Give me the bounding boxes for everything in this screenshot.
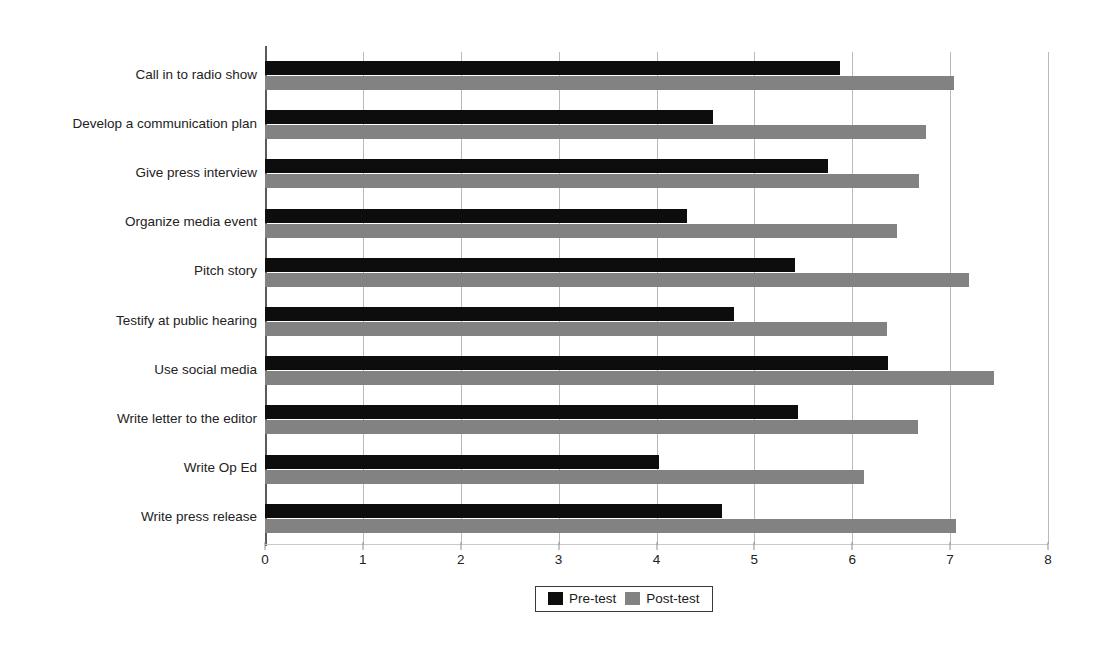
bar-group [265, 347, 1048, 396]
bar-group [265, 101, 1048, 150]
legend-swatch-icon [548, 592, 563, 605]
bar-group [265, 298, 1048, 347]
bar-pre-test [265, 455, 659, 469]
bar-group [265, 150, 1048, 199]
bar-post-test [265, 470, 864, 484]
category-label: Organize media event [0, 214, 257, 230]
tick-label-7: 7 [946, 552, 954, 567]
tick-mark [460, 542, 461, 550]
category-label: Pitch story [0, 263, 257, 279]
bar-post-test [265, 322, 887, 336]
value-axis-labels: 012345678 [265, 552, 1048, 576]
bar-pre-test [265, 258, 795, 272]
bar-pre-test [265, 159, 828, 173]
tick-mark [265, 542, 266, 550]
tick-mark [754, 542, 755, 550]
category-label: Write press release [0, 509, 257, 525]
tick-mark [656, 542, 657, 550]
bar-group [265, 200, 1048, 249]
legend-swatch-icon [625, 592, 640, 605]
tick-label-6: 6 [848, 552, 856, 567]
tick-label-4: 4 [653, 552, 661, 567]
legend-item: Pre-test [548, 591, 616, 606]
legend-label: Pre-test [569, 591, 616, 606]
tick-mark [852, 542, 853, 550]
bar-post-test [265, 371, 994, 385]
category-label: Testify at public hearing [0, 313, 257, 329]
bar-group [265, 446, 1048, 495]
tick-label-5: 5 [751, 552, 759, 567]
tick-label-8: 8 [1044, 552, 1052, 567]
bar-pre-test [265, 61, 840, 75]
category-label: Develop a communication plan [0, 116, 257, 132]
tick-mark [1048, 542, 1049, 550]
chart-legend: Pre-testPost-test [535, 586, 713, 612]
bar-post-test [265, 224, 897, 238]
tick-label-3: 3 [555, 552, 563, 567]
category-label: Use social media [0, 362, 257, 378]
bar-post-test [265, 76, 954, 90]
bar-chart: Call in to radio showDevelop a communica… [0, 0, 1093, 651]
bar-pre-test [265, 504, 722, 518]
bar-post-test [265, 519, 956, 533]
tick-mark [558, 542, 559, 550]
tick-mark [362, 542, 363, 550]
bar-group [265, 396, 1048, 445]
bar-post-test [265, 273, 969, 287]
bar-pre-test [265, 356, 888, 370]
bar-pre-test [265, 209, 687, 223]
tick-mark [950, 542, 951, 550]
bar-pre-test [265, 405, 798, 419]
category-label: Write letter to the editor [0, 411, 257, 427]
gridline-8 [1048, 52, 1049, 544]
tick-label-2: 2 [457, 552, 465, 567]
category-label: Write Op Ed [0, 460, 257, 476]
bar-group [265, 52, 1048, 101]
category-label: Give press interview [0, 165, 257, 181]
bar-pre-test [265, 110, 713, 124]
bar-post-test [265, 420, 918, 434]
tick-label-0: 0 [261, 552, 269, 567]
category-label: Call in to radio show [0, 67, 257, 83]
bar-post-test [265, 174, 919, 188]
category-axis-labels: Call in to radio showDevelop a communica… [0, 52, 257, 544]
bar-post-test [265, 125, 926, 139]
bar-group [265, 495, 1048, 544]
legend-item: Post-test [625, 591, 699, 606]
tick-label-1: 1 [359, 552, 367, 567]
plot-area [265, 52, 1048, 544]
bar-group [265, 249, 1048, 298]
legend-label: Post-test [646, 591, 699, 606]
bar-pre-test [265, 307, 734, 321]
